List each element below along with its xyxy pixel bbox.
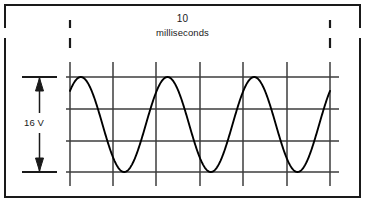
grid	[66, 62, 339, 186]
amplitude-arrowhead-top	[36, 78, 44, 91]
oscilloscope-figure: 10 milliseconds 16 V	[0, 0, 365, 202]
amplitude-arrowhead-bottom	[36, 158, 44, 171]
period-dimension-unit-wrap: milliseconds	[0, 28, 365, 38]
amplitude-dimension-label-wrap: 16 V	[14, 118, 54, 128]
period-dimension-value: 10	[0, 14, 365, 24]
grid-horizontal-lines	[66, 77, 339, 172]
period-dimension-unit: milliseconds	[153, 27, 212, 38]
amplitude-dimension-label: 16 V	[22, 116, 46, 129]
